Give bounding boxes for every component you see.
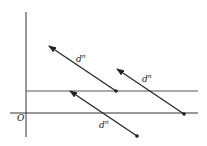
diagram: dn dn dn O xyxy=(0,0,207,146)
vector-1: dn xyxy=(49,46,118,93)
vector-3: dn xyxy=(70,91,139,138)
svg-text:dn: dn xyxy=(76,52,86,64)
svg-text:dn: dn xyxy=(99,118,109,130)
svg-text:dn: dn xyxy=(142,72,152,84)
vector-2: dn xyxy=(117,69,186,116)
origin-label: O xyxy=(17,113,25,123)
